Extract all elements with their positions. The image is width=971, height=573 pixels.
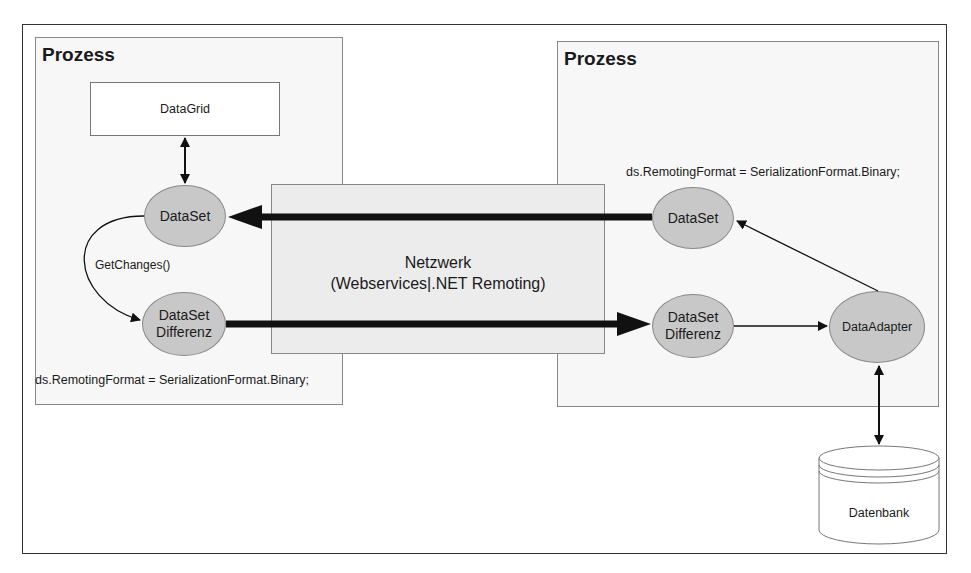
left-diff-label-line1: DataSet: [159, 307, 210, 324]
left-dataset-diff-node: DataSet Differenz: [142, 292, 226, 356]
right-dataset-diff-node: DataSet Differenz: [652, 294, 734, 358]
datagrid-label: DataGrid: [160, 102, 210, 116]
left-remoting-code: ds.RemotingFormat = SerializationFormat.…: [35, 373, 309, 387]
right-dataset-label: DataSet: [668, 210, 719, 227]
database-label: Datenbank: [819, 506, 939, 520]
left-dataset-node: DataSet: [144, 185, 226, 247]
network-box: Netzwerk (Webservices|.NET Remoting): [271, 184, 605, 354]
right-process-title: Prozess: [564, 48, 637, 70]
network-label-line2: (Webservices|.NET Remoting): [272, 274, 604, 294]
right-remoting-code: ds.RemotingFormat = SerializationFormat.…: [626, 165, 900, 179]
getchanges-label: GetChanges(): [95, 258, 170, 272]
dataadapter-node: DataAdapter: [829, 291, 925, 363]
left-diff-label-line2: Differenz: [156, 324, 212, 341]
left-process-title: Prozess: [42, 44, 115, 66]
network-label-line1: Netzwerk: [272, 253, 604, 273]
right-diff-label-line2: Differenz: [665, 326, 721, 343]
left-dataset-label: DataSet: [160, 208, 211, 225]
dataadapter-label: DataAdapter: [842, 319, 912, 336]
right-dataset-node: DataSet: [652, 187, 734, 249]
datagrid-box: DataGrid: [90, 82, 280, 136]
right-diff-label-line1: DataSet: [668, 309, 719, 326]
